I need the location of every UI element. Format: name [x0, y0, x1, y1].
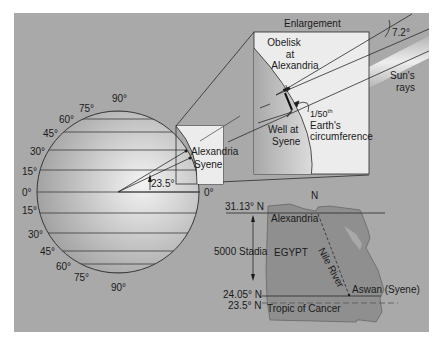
- sun-rays-label-1: Sun's: [390, 70, 415, 81]
- label-south-30: 30°: [28, 229, 43, 240]
- city-alexandria-label: Alexandria: [271, 213, 319, 224]
- label-south-45: 45°: [40, 246, 55, 257]
- eratosthenes-diagram: 90° 75° 60° 45° 30° 15° 0° 0° 15° 30° 45…: [0, 0, 440, 340]
- label-south-60: 60°: [56, 261, 71, 272]
- label-south-15: 15°: [22, 205, 37, 216]
- label-syene-point: Syene: [194, 159, 223, 170]
- well-label-2: Syene: [272, 136, 301, 147]
- label-north-60: 60°: [59, 114, 74, 125]
- label-north-45: 45°: [43, 128, 58, 139]
- obelisk-label-1: Obelisk: [267, 37, 301, 48]
- sun-rays-label-2: rays: [396, 82, 415, 93]
- lat-tropic-label: 23.5° N: [228, 300, 261, 311]
- angle-7-2-label: 7.2°: [392, 27, 410, 38]
- north-label: N: [311, 190, 318, 201]
- obelisk-label-2: at: [286, 49, 295, 60]
- enlargement-title: Enlargement: [284, 18, 341, 29]
- label-equator-left: 0°: [22, 187, 32, 198]
- circumference-label-2: circumference: [310, 131, 373, 142]
- label-south-90: 90°: [111, 282, 126, 293]
- lat-alexandria-label: 31.13° N: [225, 201, 264, 212]
- enlargement-box: [254, 32, 369, 180]
- label-north-90: 90°: [112, 93, 127, 104]
- country-label: EGYPT: [274, 247, 308, 258]
- tropic-label: Tropic of Cancer: [267, 303, 341, 314]
- label-north-15: 15°: [22, 166, 37, 177]
- well-label-1: Well at: [268, 124, 299, 135]
- label-tilt-angle: 23.5°: [151, 178, 174, 189]
- obelisk-label-3: Alexandria: [271, 60, 319, 71]
- lat-aswan-label: 24.05° N: [223, 289, 262, 300]
- label-north-30: 30°: [30, 146, 45, 157]
- label-north-75: 75°: [79, 103, 94, 114]
- label-south-75: 75°: [74, 272, 89, 283]
- city-aswan-label: Aswan (Syene): [352, 284, 420, 295]
- circumference-label-1: Earth's: [310, 120, 341, 131]
- distance-label: 5000 Stadia: [214, 246, 268, 257]
- label-equator-right: 0°: [204, 187, 214, 198]
- label-alexandria-point: Alexandria: [191, 146, 239, 157]
